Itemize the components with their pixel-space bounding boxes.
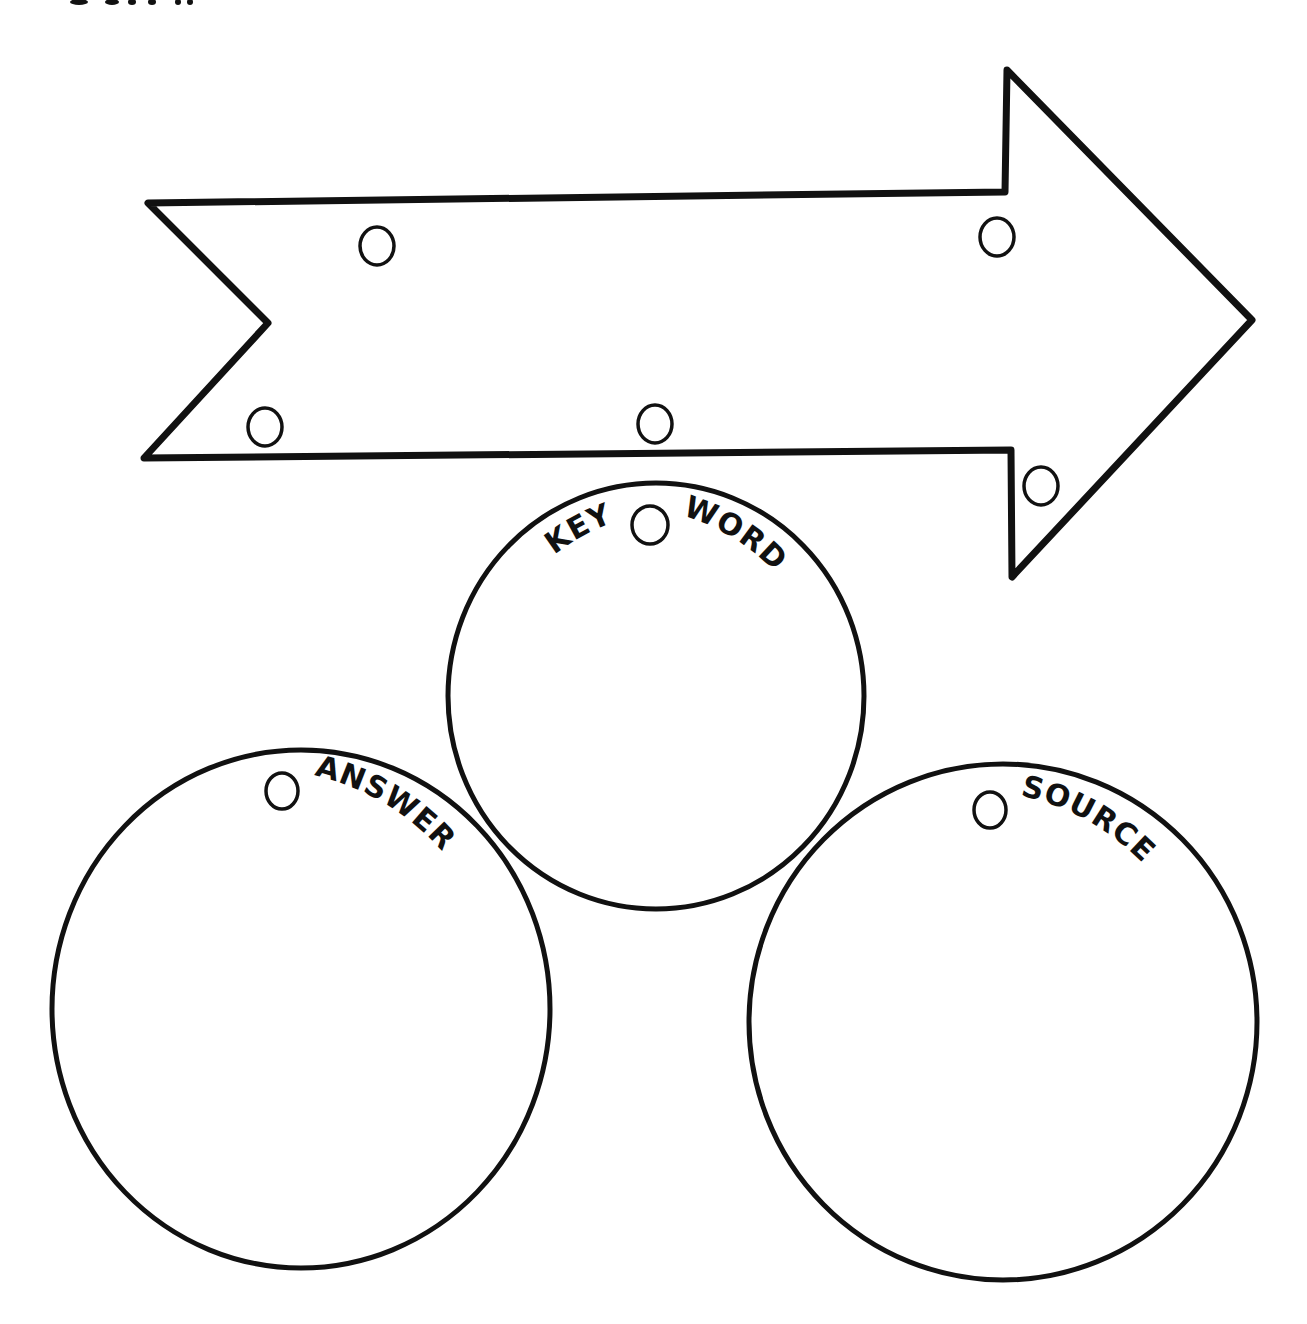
answer-circle-group: ANSWER xyxy=(52,748,550,1268)
source-circle[interactable] xyxy=(749,764,1257,1280)
checkbox-circle-icon[interactable] xyxy=(1024,467,1058,505)
keyword-circle-group: KEY WORD xyxy=(448,483,864,909)
graphic-organizer-canvas: KEY WORD ANSWER SOURCE xyxy=(0,0,1307,1324)
source-label: SOURCE xyxy=(1018,768,1163,869)
cutoff-text-fragment xyxy=(70,0,193,5)
answer-checkbox-circle-icon[interactable] xyxy=(266,773,298,809)
answer-circle[interactable] xyxy=(52,750,550,1268)
checkbox-circle-icon[interactable] xyxy=(638,405,672,443)
checkbox-circle-icon[interactable] xyxy=(360,227,394,265)
source-circle-group: SOURCE xyxy=(749,764,1257,1280)
keyword-label-key: KEY xyxy=(538,496,617,561)
keyword-circle[interactable] xyxy=(448,483,864,909)
checkbox-circle-icon[interactable] xyxy=(980,218,1014,256)
arrow-checkboxes xyxy=(248,218,1058,505)
keyword-checkbox-circle-icon[interactable] xyxy=(632,506,668,544)
checkbox-circle-icon[interactable] xyxy=(248,408,282,446)
source-checkbox-circle-icon[interactable] xyxy=(974,792,1006,828)
